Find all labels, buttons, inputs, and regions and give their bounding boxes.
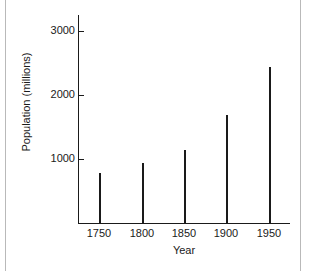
y-axis-title: Population (millions): [20, 32, 32, 172]
y-axis-tick-label: 2000: [51, 89, 75, 100]
x-axis-line: [78, 223, 290, 224]
x-axis-tick-label: 1750: [79, 227, 119, 239]
y-axis-line: [78, 15, 79, 224]
bar: [269, 67, 271, 223]
population-bar-chart: 100020003000 17501800185019001950 Popula…: [0, 0, 311, 271]
y-axis-tick: [79, 95, 84, 96]
x-axis-tick-label: 1850: [164, 227, 204, 239]
x-axis-tick-label: 1800: [122, 227, 162, 239]
x-axis-tick-label: 1950: [249, 227, 289, 239]
y-axis-tick-label: 1000: [51, 153, 75, 164]
x-axis-tick-label: 1900: [206, 227, 246, 239]
bar: [99, 173, 101, 223]
y-axis-tick: [79, 159, 84, 160]
bar: [142, 163, 144, 223]
bar: [226, 115, 228, 223]
y-axis-tick-label: 3000: [51, 25, 75, 36]
y-axis-tick: [79, 31, 84, 32]
x-axis-title: Year: [78, 244, 290, 256]
bar: [184, 150, 186, 223]
